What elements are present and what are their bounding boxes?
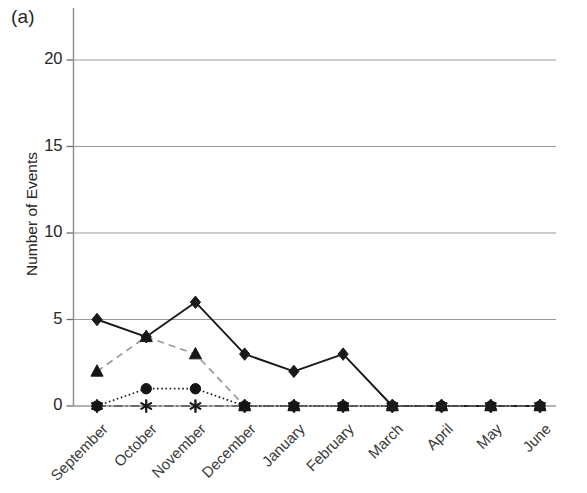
data-point-circle-november [190,384,200,394]
data-point-circle-october [141,384,151,394]
series-lines [97,302,540,406]
series-line-triangle [97,337,540,406]
series-line-diamond [97,302,540,406]
y-axis-tick-label: 10 [19,222,63,241]
y-axis-tick-label: 0 [19,395,63,414]
y-axis-tick-label: 15 [19,136,63,155]
series-line-circle [97,389,540,406]
y-axis-tick-label: 5 [19,309,63,328]
data-point-circle-september [92,401,102,411]
figure-panel-a: (a) Number of Events 05101520 SeptemberO… [0,0,587,493]
y-axis-ticks [67,60,74,406]
gridlines [74,60,557,406]
data-point-diamond-september [92,313,102,325]
x-axis-ticks [97,406,540,413]
plot-area [0,0,587,493]
data-point-diamond-january [289,365,299,377]
series-markers [91,296,546,412]
data-point-triangle-september [91,365,103,376]
y-axis-tick-label: 20 [19,49,63,68]
